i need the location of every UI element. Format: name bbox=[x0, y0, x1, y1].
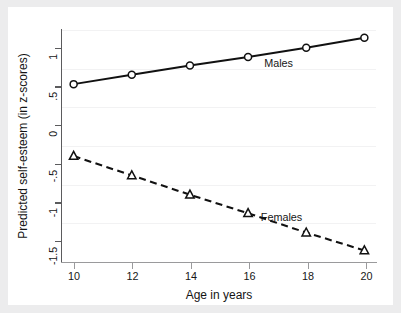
x-tick-label: 20 bbox=[360, 270, 372, 282]
gridline bbox=[62, 185, 376, 186]
series-annotation-males: Males bbox=[264, 57, 293, 69]
gridline bbox=[62, 30, 376, 31]
x-tick-label: 14 bbox=[185, 270, 197, 282]
y-tick-label: 0 bbox=[47, 131, 59, 137]
y-tick-mark bbox=[55, 86, 61, 87]
y-tick-mark bbox=[55, 48, 61, 49]
y-tick-mark bbox=[55, 241, 61, 242]
y-tick-label: 1 bbox=[47, 54, 59, 60]
x-axis-title: Age in years bbox=[62, 288, 376, 302]
plot-area bbox=[62, 30, 376, 262]
x-tick-label: 18 bbox=[302, 270, 314, 282]
x-tick-mark bbox=[74, 263, 75, 269]
x-tick-mark bbox=[191, 263, 192, 269]
x-tick-mark bbox=[249, 263, 250, 269]
y-tick-mark bbox=[55, 164, 61, 165]
y-tick-label: -1.5 bbox=[47, 247, 59, 265]
figure-container: 1 .5 0 -.5 -1 -1.5 10 12 14 16 18 20 Mal… bbox=[0, 0, 401, 313]
x-tick-mark bbox=[366, 263, 367, 269]
gridline bbox=[62, 146, 376, 147]
y-axis-title-wrapper: Predicted self-esteem (in z-scores) bbox=[14, 30, 32, 262]
x-tick-mark bbox=[308, 263, 309, 269]
x-tick-mark bbox=[132, 263, 133, 269]
y-axis-line bbox=[61, 29, 62, 263]
y-tick-label: -1 bbox=[47, 208, 59, 217]
gridline bbox=[62, 69, 376, 70]
x-tick-label: 16 bbox=[243, 270, 255, 282]
y-tick-mark bbox=[55, 202, 61, 203]
y-tick-mark bbox=[55, 125, 61, 126]
series-annotation-females: Females bbox=[261, 211, 302, 223]
x-tick-label: 10 bbox=[68, 270, 80, 282]
gridline bbox=[62, 223, 376, 224]
x-axis-line bbox=[61, 262, 377, 263]
gridline bbox=[62, 107, 376, 108]
y-tick-label: -.5 bbox=[47, 170, 59, 182]
x-tick-label: 12 bbox=[126, 270, 138, 282]
y-tick-label: .5 bbox=[47, 92, 59, 101]
y-axis-title: Predicted self-esteem (in z-scores) bbox=[16, 53, 30, 238]
